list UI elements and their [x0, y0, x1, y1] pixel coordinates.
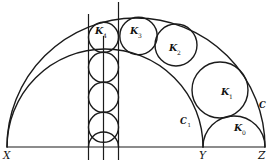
label-k3-subscript: 3: [138, 32, 142, 39]
point-label-x: X: [2, 149, 11, 161]
arbelos-pappus-chain-diagram: X Y Z K 4 K 3 K 2 K 1 K 0 C 1 C: [0, 0, 277, 167]
label-c1: C: [180, 116, 187, 126]
point-label-y: Y: [199, 149, 207, 161]
label-c1-subscript: 1: [188, 122, 192, 128]
point-label-z: Z: [257, 149, 266, 161]
label-k1-subscript: 1: [229, 93, 233, 100]
geometry-figure: X Y Z K 4 K 3 K 2 K 1 K 0 C 1 C: [0, 0, 277, 167]
outer-semicircle-c: [7, 18, 265, 147]
label-c: C: [259, 100, 266, 110]
label-k0-subscript: 0: [242, 129, 246, 136]
label-k4-subscript: 4: [103, 32, 107, 39]
label-k2-subscript: 2: [177, 49, 181, 56]
chain-circle-k1: [192, 62, 248, 118]
